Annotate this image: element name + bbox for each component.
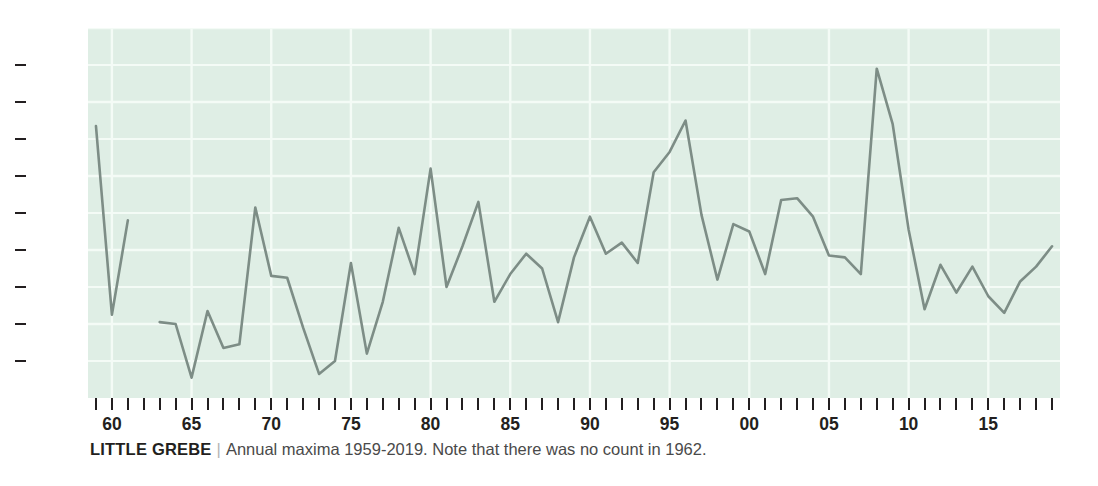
x-tick-label: 05 bbox=[819, 414, 838, 435]
x-tick-mark bbox=[987, 398, 989, 410]
caption-separator: | bbox=[212, 440, 226, 458]
x-tick-mark bbox=[111, 398, 113, 410]
x-tick-mark bbox=[270, 398, 272, 410]
x-tick-mark bbox=[366, 398, 368, 410]
x-tick-label: 00 bbox=[740, 414, 759, 435]
x-tick-mark bbox=[254, 398, 256, 410]
x-tick-mark bbox=[844, 398, 846, 410]
x-tick-label: 75 bbox=[341, 414, 360, 435]
x-tick-mark bbox=[812, 398, 814, 410]
x-tick-mark bbox=[446, 398, 448, 410]
x-tick-mark bbox=[1035, 398, 1037, 410]
x-tick-mark bbox=[238, 398, 240, 410]
plot-area bbox=[88, 28, 1060, 398]
x-tick-mark bbox=[557, 398, 559, 410]
x-tick-mark bbox=[525, 398, 527, 410]
caption-note: Annual maxima 1959-2019. Note that there… bbox=[226, 440, 707, 458]
x-tick-mark bbox=[95, 398, 97, 410]
y-tick-mark bbox=[15, 323, 26, 325]
x-tick-mark bbox=[589, 398, 591, 410]
x-tick-mark bbox=[207, 398, 209, 410]
x-tick-mark bbox=[477, 398, 479, 410]
x-tick-mark bbox=[876, 398, 878, 410]
x-tick-mark bbox=[971, 398, 973, 410]
x-tick-label: 85 bbox=[501, 414, 520, 435]
x-tick-mark bbox=[350, 398, 352, 410]
x-tick-label: 15 bbox=[979, 414, 998, 435]
x-tick-mark bbox=[461, 398, 463, 410]
line-chart-svg bbox=[88, 28, 1060, 398]
x-tick-mark bbox=[143, 398, 145, 410]
x-tick-mark bbox=[860, 398, 862, 410]
y-axis: 020406080100120140160180200 bbox=[0, 0, 88, 486]
figure-caption: LITTLE GREBE|Annual maxima 1959-2019. No… bbox=[90, 440, 707, 459]
x-tick-label: 60 bbox=[102, 414, 121, 435]
x-tick-mark bbox=[493, 398, 495, 410]
y-tick-mark bbox=[15, 64, 26, 66]
x-tick-mark bbox=[175, 398, 177, 410]
x-tick-mark bbox=[302, 398, 304, 410]
x-tick-mark bbox=[780, 398, 782, 410]
x-tick-mark bbox=[222, 398, 224, 410]
x-tick-mark bbox=[828, 398, 830, 410]
x-tick-mark bbox=[430, 398, 432, 410]
y-tick-mark bbox=[15, 360, 26, 362]
x-tick-mark bbox=[621, 398, 623, 410]
x-tick-mark bbox=[414, 398, 416, 410]
y-tick-mark bbox=[15, 175, 26, 177]
chart-figure: 020406080100120140160180200 606570758085… bbox=[0, 0, 1098, 486]
x-tick-mark bbox=[669, 398, 671, 410]
x-tick-mark bbox=[716, 398, 718, 410]
x-tick-mark bbox=[955, 398, 957, 410]
x-tick-mark bbox=[318, 398, 320, 410]
x-tick-mark bbox=[573, 398, 575, 410]
y-tick-mark bbox=[15, 212, 26, 214]
x-tick-mark bbox=[334, 398, 336, 410]
x-tick-mark bbox=[908, 398, 910, 410]
x-tick-mark bbox=[286, 398, 288, 410]
caption-species: LITTLE GREBE bbox=[90, 440, 212, 458]
x-tick-label: 95 bbox=[660, 414, 679, 435]
x-tick-label: 80 bbox=[421, 414, 440, 435]
x-tick-mark bbox=[764, 398, 766, 410]
x-tick-mark bbox=[653, 398, 655, 410]
x-tick-mark bbox=[924, 398, 926, 410]
x-tick-mark bbox=[127, 398, 129, 410]
x-tick-mark bbox=[398, 398, 400, 410]
x-axis: 606570758085909500051015 bbox=[88, 398, 1060, 444]
x-tick-mark bbox=[700, 398, 702, 410]
x-tick-mark bbox=[685, 398, 687, 410]
x-tick-mark bbox=[1051, 398, 1053, 410]
x-tick-mark bbox=[159, 398, 161, 410]
x-tick-mark bbox=[732, 398, 734, 410]
x-tick-mark bbox=[796, 398, 798, 410]
x-tick-label: 65 bbox=[182, 414, 201, 435]
gridlines bbox=[88, 28, 1060, 361]
x-tick-mark bbox=[191, 398, 193, 410]
y-tick-mark bbox=[15, 101, 26, 103]
y-tick-mark bbox=[15, 249, 26, 251]
y-tick-mark bbox=[15, 286, 26, 288]
x-tick-mark bbox=[748, 398, 750, 410]
x-tick-mark bbox=[892, 398, 894, 410]
x-tick-mark bbox=[939, 398, 941, 410]
x-tick-mark bbox=[637, 398, 639, 410]
x-tick-label: 70 bbox=[262, 414, 281, 435]
x-tick-label: 90 bbox=[580, 414, 599, 435]
x-tick-label: 10 bbox=[899, 414, 918, 435]
x-tick-mark bbox=[541, 398, 543, 410]
x-tick-mark bbox=[382, 398, 384, 410]
x-tick-mark bbox=[509, 398, 511, 410]
x-tick-mark bbox=[1019, 398, 1021, 410]
x-tick-mark bbox=[1003, 398, 1005, 410]
x-tick-mark bbox=[605, 398, 607, 410]
y-tick-mark bbox=[15, 138, 26, 140]
